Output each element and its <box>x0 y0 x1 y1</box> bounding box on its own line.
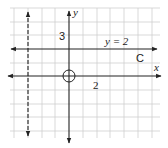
grid <box>10 8 160 138</box>
x-axis-label: x <box>153 61 159 73</box>
y-axis-label: y <box>72 6 78 18</box>
line-equation-label: y = 2 <box>104 35 129 47</box>
label-C: C <box>136 52 144 64</box>
coordinate-plane-figure: y x 3 2 y = 2 C <box>0 0 168 148</box>
label-2: 2 <box>93 79 99 91</box>
coordinate-plane-svg: y x 3 2 y = 2 C <box>0 0 168 148</box>
label-3: 3 <box>59 30 65 42</box>
